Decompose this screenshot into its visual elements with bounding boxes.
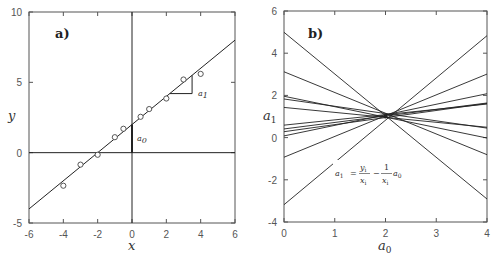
- data-point-marker: [138, 114, 143, 119]
- intercept-annotation-a0: a0: [137, 134, 147, 145]
- panel-b-tick-labels: 01234-4-20246: [268, 6, 490, 239]
- panel-a-label: a): [55, 26, 70, 41]
- x-tick-label: -4: [59, 229, 68, 240]
- panel-a-zero-axes: [29, 12, 235, 223]
- y-tick-label: -2: [268, 175, 277, 186]
- equation-annotation: a1 = yi xi − 1 xi a0: [333, 160, 409, 192]
- eq-num2: 1: [384, 163, 389, 172]
- x-tick-label: 2: [164, 229, 170, 240]
- eq-minus: −: [373, 169, 380, 178]
- panel-a-tick-labels: -6-4-20246-50510: [11, 7, 238, 240]
- intersection-point: [384, 115, 388, 119]
- x-tick-label: 6: [232, 229, 238, 240]
- y-tick-label: 0: [271, 133, 277, 144]
- panel-b-label: b): [308, 26, 323, 41]
- panel-a-scatter-plot: -6-4-20246-50510 a) x y a1 a0: [7, 7, 238, 253]
- y-tick-label: 4: [271, 48, 277, 59]
- data-point-marker: [112, 135, 117, 140]
- y-tick-label: 6: [271, 6, 277, 17]
- panel-b-x-axis-label: a0: [378, 238, 392, 255]
- y-tick-label: -4: [268, 217, 277, 228]
- x-tick-label: 1: [332, 228, 338, 239]
- y-tick-label: 10: [11, 7, 23, 18]
- x-tick-label: 3: [433, 228, 439, 239]
- y-tick-label: 5: [16, 77, 22, 88]
- y-tick-label: -5: [13, 218, 22, 229]
- data-point-marker: [147, 106, 152, 111]
- data-point-marker: [78, 162, 83, 167]
- x-tick-label: -2: [93, 229, 102, 240]
- x-tick-label: -6: [25, 229, 34, 240]
- data-point-marker: [95, 152, 100, 157]
- figure: -6-4-20246-50510 a) x y a1 a0 01234-4-20…: [0, 0, 501, 268]
- panel-a-y-axis-label: y: [7, 108, 16, 123]
- y-tick-label: 2: [271, 90, 277, 101]
- x-tick-label: 4: [484, 228, 490, 239]
- x-tick-label: 0: [281, 228, 287, 239]
- y-tick-label: 0: [16, 148, 22, 159]
- data-point-marker: [164, 96, 169, 101]
- panel-b-y-axis-label: a1: [263, 108, 277, 125]
- eq-equals: =: [350, 169, 357, 178]
- parameter-line: [284, 99, 487, 128]
- x-tick-label: 4: [198, 229, 204, 240]
- panel-b-line-plot: 01234-4-20246 b) a0 a1 a1 = yi xi − 1 xi…: [263, 6, 490, 255]
- panel-a-x-axis-label: x: [128, 238, 136, 253]
- slope-annotation-a1: a1: [198, 89, 208, 100]
- data-point-marker: [61, 183, 66, 188]
- data-point-marker: [181, 77, 186, 82]
- data-point-marker: [121, 126, 126, 131]
- data-point-marker: [198, 71, 203, 76]
